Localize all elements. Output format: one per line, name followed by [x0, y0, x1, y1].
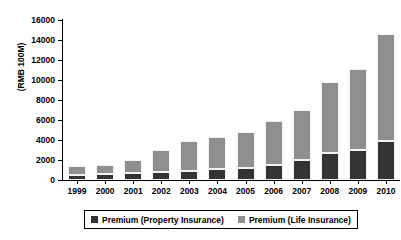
y-axis-tick-label: 2000: [36, 156, 55, 164]
bar-segment-property-insurance: [265, 165, 283, 180]
legend-swatch-property-icon: [91, 216, 98, 223]
y-axis-tick-label: 16000: [31, 16, 55, 24]
chart-legend: Premium (Property Insurance)Premium (Lif…: [84, 210, 358, 229]
legend-swatch-life-icon: [238, 216, 245, 223]
bar-group: [377, 20, 395, 180]
bar-segment-property-insurance: [293, 160, 311, 180]
bar-group: [124, 20, 142, 180]
y-axis-title: (RMB 100M): [16, 22, 26, 112]
legend-item: Premium (Life Insurance): [238, 215, 351, 225]
plot-area: [63, 20, 400, 180]
bar-segment-life-insurance: [68, 166, 86, 175]
bar-segment-property-insurance: [237, 168, 255, 180]
y-axis-tick-label: 8000: [36, 96, 55, 104]
bar-segment-life-insurance: [349, 69, 367, 150]
bar-group: [321, 20, 339, 180]
bar-segment-life-insurance: [124, 160, 142, 174]
bar-group: [152, 20, 170, 180]
bar-segment-life-insurance: [321, 82, 339, 153]
legend-label: Premium (Property Insurance): [102, 215, 224, 225]
bar-segment-life-insurance: [265, 121, 283, 165]
y-axis-tick-label: 0: [50, 176, 55, 184]
bar-group: [265, 20, 283, 180]
bar-segment-property-insurance: [180, 171, 198, 180]
x-axis-tick: [161, 180, 162, 184]
x-axis-tick: [302, 180, 303, 184]
bar-segment-life-insurance: [152, 150, 170, 172]
bar-segment-property-insurance: [96, 174, 114, 180]
bar-segment-property-insurance: [208, 169, 226, 180]
y-axis-tick: [58, 180, 63, 181]
x-axis-tick: [330, 180, 331, 184]
bar-group: [68, 20, 86, 180]
bar-segment-property-insurance: [321, 153, 339, 180]
y-axis-tick-label: 4000: [36, 136, 55, 144]
bar-segment-life-insurance: [208, 137, 226, 169]
x-axis-line: [62, 180, 400, 181]
bar-group: [349, 20, 367, 180]
x-axis-tick: [217, 180, 218, 184]
bar-group: [180, 20, 198, 180]
x-axis-tick: [189, 180, 190, 184]
legend-label: Premium (Life Insurance): [249, 215, 351, 225]
y-axis-tick-label: 10000: [31, 76, 55, 84]
bar-segment-life-insurance: [293, 110, 311, 160]
x-axis-tick: [77, 180, 78, 184]
x-axis-tick-label: 2010: [369, 186, 401, 196]
x-axis-tick: [246, 180, 247, 184]
bar-group: [96, 20, 114, 180]
bar-segment-property-insurance: [349, 150, 367, 180]
bar-group: [208, 20, 226, 180]
bar-segment-property-insurance: [152, 172, 170, 180]
bar-segment-property-insurance: [377, 141, 395, 180]
bar-segment-life-insurance: [237, 132, 255, 168]
x-axis-tick: [133, 180, 134, 184]
bar-group: [293, 20, 311, 180]
bar-segment-property-insurance: [68, 175, 86, 180]
bar-segment-life-insurance: [180, 141, 198, 171]
x-axis-tick: [274, 180, 275, 184]
stacked-bar-chart: (RMB 100M) 16000140001200010000800060004…: [0, 0, 401, 240]
bar-segment-property-insurance: [124, 173, 142, 180]
x-axis-tick: [105, 180, 106, 184]
x-axis-tick: [386, 180, 387, 184]
y-axis-tick-label: 12000: [31, 56, 55, 64]
legend-item: Premium (Property Insurance): [91, 215, 224, 225]
y-axis-tick-label: 6000: [36, 116, 55, 124]
x-axis-tick: [358, 180, 359, 184]
y-axis-tick-label: 14000: [31, 36, 55, 44]
bar-segment-life-insurance: [377, 34, 395, 141]
bar-group: [237, 20, 255, 180]
bar-segment-life-insurance: [96, 165, 114, 175]
